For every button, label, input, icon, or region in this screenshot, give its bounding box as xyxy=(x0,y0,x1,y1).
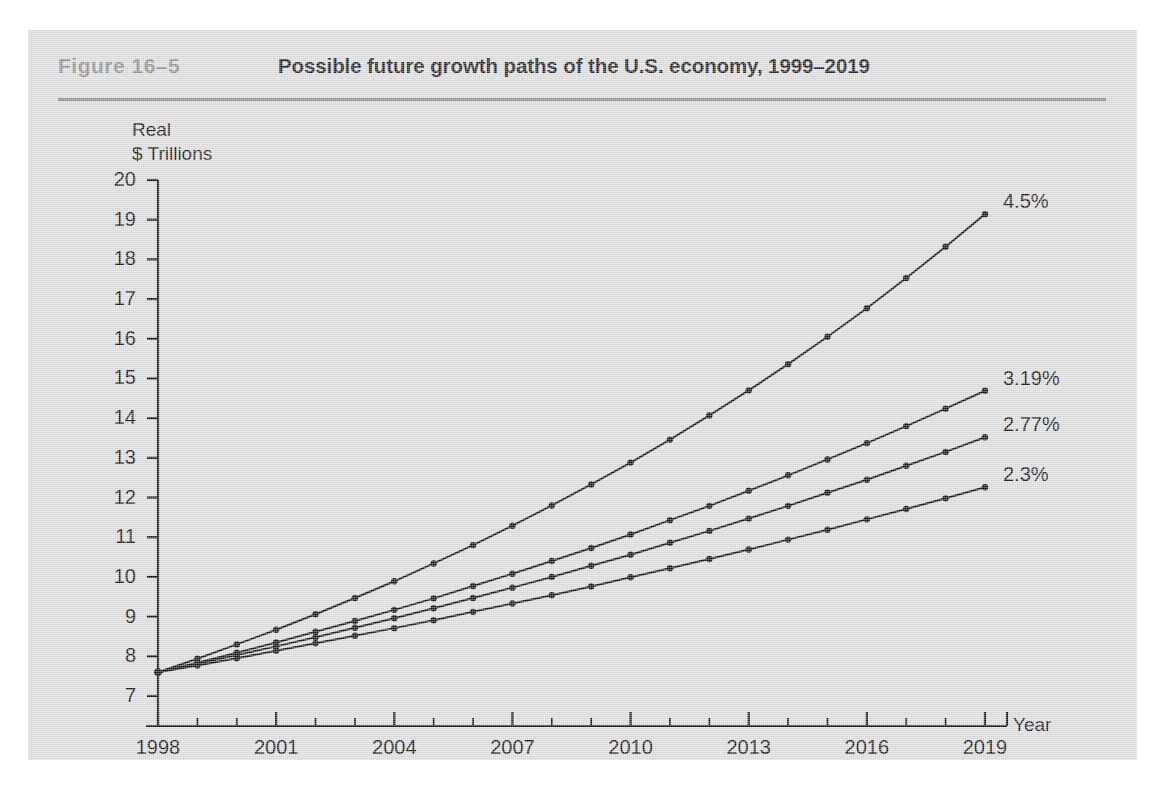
data-point xyxy=(391,625,397,631)
data-point xyxy=(549,502,555,508)
data-point-origin xyxy=(154,669,161,676)
series-label-4.5%: 4.5% xyxy=(1003,190,1049,213)
data-point xyxy=(588,563,594,569)
data-point xyxy=(746,546,752,552)
series-line-3.19% xyxy=(158,391,985,672)
data-point xyxy=(391,578,397,584)
data-point xyxy=(627,551,633,557)
data-point xyxy=(430,560,436,566)
y-tick-label: 14 xyxy=(100,406,136,429)
data-point xyxy=(903,463,909,469)
x-tick-label: 2007 xyxy=(472,736,552,759)
data-point xyxy=(549,574,555,580)
data-point xyxy=(785,503,791,509)
data-point xyxy=(470,609,476,615)
data-point xyxy=(627,574,633,580)
data-point xyxy=(312,611,318,617)
data-point xyxy=(942,495,948,501)
y-tick-label: 18 xyxy=(100,247,136,270)
chart-plot-area: Real$ Trillions Year 7891011121314151617… xyxy=(28,30,1137,760)
y-tick-label: 13 xyxy=(100,446,136,469)
data-point xyxy=(824,490,830,496)
data-point xyxy=(824,334,830,340)
data-point xyxy=(273,627,279,633)
data-point xyxy=(706,503,712,509)
data-point xyxy=(234,641,240,647)
data-point xyxy=(746,387,752,393)
data-point xyxy=(982,484,988,490)
data-point xyxy=(588,545,594,551)
data-point xyxy=(470,542,476,548)
data-point xyxy=(627,459,633,465)
y-tick-label: 12 xyxy=(100,486,136,509)
data-point xyxy=(706,412,712,418)
data-point xyxy=(942,405,948,411)
x-tick-label: 1998 xyxy=(118,736,198,759)
data-point xyxy=(667,565,673,571)
data-point xyxy=(391,607,397,613)
data-point xyxy=(470,583,476,589)
data-point xyxy=(746,515,752,521)
series-label-3.19%: 3.19% xyxy=(1003,367,1060,390)
data-point xyxy=(194,662,200,668)
x-tick-label: 2013 xyxy=(709,736,789,759)
data-point xyxy=(903,423,909,429)
data-point xyxy=(667,540,673,546)
y-tick-label: 17 xyxy=(100,287,136,310)
data-point xyxy=(864,305,870,311)
data-point xyxy=(352,618,358,624)
series-label-2.77%: 2.77% xyxy=(1003,413,1060,436)
data-point xyxy=(903,275,909,281)
data-point xyxy=(627,531,633,537)
data-point xyxy=(785,536,791,542)
data-point xyxy=(470,595,476,601)
data-point xyxy=(785,472,791,478)
figure-panel: Figure 16–5 Possible future growth paths… xyxy=(28,30,1137,760)
x-tick-label: 2001 xyxy=(236,736,316,759)
data-point xyxy=(273,648,279,654)
data-point xyxy=(352,632,358,638)
y-tick-label: 15 xyxy=(100,366,136,389)
data-point xyxy=(864,476,870,482)
data-point xyxy=(667,517,673,523)
data-point xyxy=(312,634,318,640)
x-tick-label: 2004 xyxy=(354,736,434,759)
y-tick-label: 9 xyxy=(100,605,136,628)
x-tick-label: 2019 xyxy=(945,736,1025,759)
data-point xyxy=(903,506,909,512)
data-point xyxy=(509,584,515,590)
data-point xyxy=(352,625,358,631)
data-point xyxy=(785,361,791,367)
data-point xyxy=(312,628,318,634)
data-point xyxy=(352,595,358,601)
data-point xyxy=(746,488,752,494)
y-tick-label: 16 xyxy=(100,327,136,350)
y-tick-label: 19 xyxy=(100,208,136,231)
data-point xyxy=(549,558,555,564)
data-point xyxy=(549,592,555,598)
data-point xyxy=(864,516,870,522)
y-tick-label: 11 xyxy=(100,525,136,548)
data-point xyxy=(982,388,988,394)
data-point xyxy=(430,605,436,611)
x-tick-label: 2016 xyxy=(827,736,907,759)
data-point xyxy=(234,655,240,661)
data-point xyxy=(864,440,870,446)
data-point xyxy=(588,481,594,487)
data-point xyxy=(312,640,318,646)
data-point xyxy=(509,600,515,606)
y-tick-label: 10 xyxy=(100,565,136,588)
data-point xyxy=(824,526,830,532)
data-point xyxy=(391,615,397,621)
data-point xyxy=(509,571,515,577)
x-tick-label: 2010 xyxy=(591,736,671,759)
data-point xyxy=(509,523,515,529)
data-point xyxy=(982,434,988,440)
y-tick-label: 20 xyxy=(100,168,136,191)
y-tick-label: 7 xyxy=(100,684,136,707)
series-line-4.5% xyxy=(158,214,985,672)
chart-series-group xyxy=(154,211,988,676)
data-point xyxy=(430,595,436,601)
data-point xyxy=(942,449,948,455)
data-point xyxy=(588,583,594,589)
